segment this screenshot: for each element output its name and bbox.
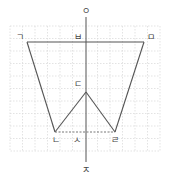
label-top-right: ㅁ xyxy=(147,32,155,42)
label-top-mid: ㅂ xyxy=(74,32,82,42)
left-edge xyxy=(27,42,55,132)
label-bottom-right: ㄹ xyxy=(111,135,119,145)
label-bottom-mid: ㅅ xyxy=(73,135,81,145)
right-edge xyxy=(115,42,144,132)
label-bottom: ㅈ xyxy=(82,165,90,175)
label-top: ㅇ xyxy=(82,6,90,16)
geometry-diagram: ㅇ ㅈ ㄱ ㅂ ㅁ ㄷ ㄴ ㅅ ㄹ xyxy=(0,0,169,176)
label-bottom-left: ㄴ xyxy=(52,135,60,145)
label-top-left: ㄱ xyxy=(16,32,24,42)
label-apex: ㄷ xyxy=(74,79,82,89)
